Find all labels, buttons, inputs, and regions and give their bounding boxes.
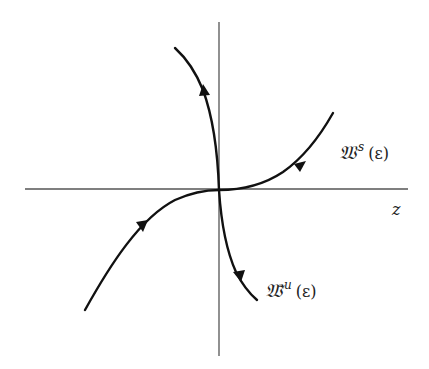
unstable-manifold-argument: (ε)	[296, 282, 317, 301]
phase-portrait-diagram	[0, 0, 429, 369]
arrow-icon-unstable-lower	[233, 270, 245, 282]
stable-manifold-left-branch	[85, 190, 219, 310]
stable-manifold-superscript: s	[358, 140, 364, 154]
unstable-manifold-superscript: u	[284, 278, 292, 292]
horizontal-axis-label: z	[392, 200, 400, 219]
stable-manifold-argument: (ε)	[368, 144, 389, 163]
stable-manifold-symbol: 𝔚	[339, 141, 356, 163]
unstable-manifold-upper-branch	[175, 48, 219, 190]
unstable-manifold-label: 𝔚̃u(ε)	[265, 281, 317, 300]
stable-manifold-right-branch	[219, 113, 333, 190]
stable-manifold-label: 𝔚s(ε)	[339, 143, 389, 162]
unstable-manifold-lower-branch	[219, 190, 257, 300]
unstable-manifold-symbol: 𝔚̃	[265, 279, 282, 301]
